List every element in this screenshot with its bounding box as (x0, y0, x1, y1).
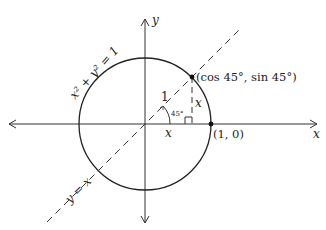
x-axis-label: x (313, 127, 320, 141)
angle-arc (163, 106, 170, 124)
intercept-label: (1, 0) (213, 127, 244, 141)
base-label: x (165, 126, 172, 140)
point-1-0 (209, 122, 214, 127)
diagram-canvas: y x (cos 45°, sin 45°) (1, 0) 1 45° x x … (0, 0, 326, 230)
y-axis-label: y (151, 13, 159, 27)
hypotenuse-label: 1 (161, 90, 169, 104)
circle-equation-label: x² + y² = 1 (67, 43, 122, 102)
point-cos45-sin45 (190, 75, 195, 80)
unit-circle-diagram: y x (cos 45°, sin 45°) (1, 0) 1 45° x x … (0, 0, 326, 230)
point-label: (cos 45°, sin 45°) (196, 70, 297, 84)
right-angle-marker (185, 117, 192, 124)
angle-label: 45° (171, 110, 183, 118)
height-label: x (195, 96, 202, 110)
